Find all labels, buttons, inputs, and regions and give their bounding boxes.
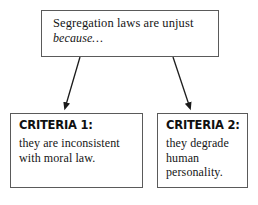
criteria-2-body-line-1: they degrade — [166, 136, 247, 151]
criteria-1-body-line-2: with moral law. — [19, 151, 142, 166]
criteria-1-heading: CRITERIA 1: — [19, 118, 142, 133]
criteria-2-body-line-2: human — [166, 151, 247, 166]
criteria-2-body-line-3: personality. — [166, 165, 247, 180]
criteria-1-body-line-1: they are inconsistent — [19, 136, 142, 151]
criteria-2-box: CRITERIA 2: they degrade human personali… — [157, 113, 248, 188]
premise-line-2: because… — [53, 31, 218, 46]
arrow-to-criteria-1 — [66, 57, 81, 107]
criteria-2-body: they degrade human personality. — [166, 136, 247, 180]
criteria-1-box: CRITERIA 1: they are inconsistent with m… — [10, 113, 143, 188]
diagram-canvas: Segregation laws are unjust because… CRI… — [0, 0, 258, 205]
premise-box: Segregation laws are unjust because… — [41, 10, 219, 57]
premise-line-1: Segregation laws are unjust — [53, 16, 218, 31]
arrow-to-criteria-2 — [173, 57, 190, 107]
criteria-2-heading: CRITERIA 2: — [166, 118, 247, 133]
criteria-1-body: they are inconsistent with moral law. — [19, 136, 142, 165]
